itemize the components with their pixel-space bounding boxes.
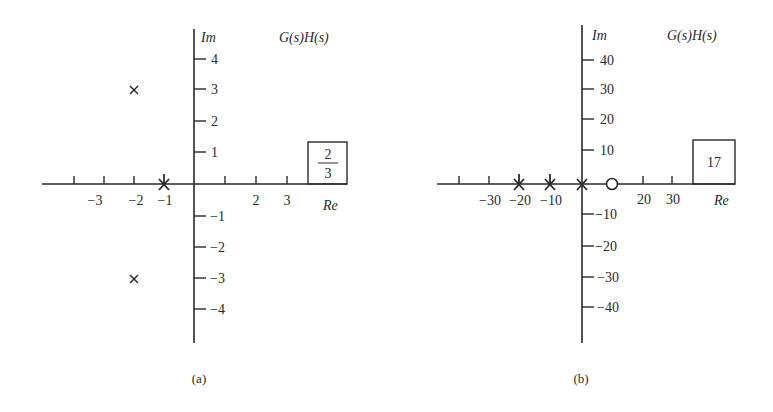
panel-b-tick-label: −30	[597, 270, 619, 285]
pole-icon	[545, 174, 555, 190]
panel-a-tick-label: −2	[129, 193, 144, 208]
panel-a-title: G(s)H(s)	[279, 30, 329, 46]
panel-a-re-label: Re	[322, 198, 338, 213]
panel-a-tick-label: 3	[284, 193, 291, 208]
panel-a-tick-label: −4	[210, 302, 225, 317]
panel-a-tick-label: 2	[211, 114, 218, 129]
panel-a-tick-label: −3	[88, 193, 103, 208]
panel-b-tick-label: 30	[666, 192, 680, 207]
pole-zero-figure: Im G(s)H(s) Re 4 3 2 1 −1 −2 −3 −4 −3 −2…	[0, 0, 773, 412]
panel-a-tick-label: −3	[210, 271, 225, 286]
panel-a	[42, 29, 347, 343]
pole-icon	[130, 275, 138, 283]
panel-a-tick-label: 3	[211, 82, 218, 97]
panel-a-gain-denominator: 3	[325, 166, 332, 181]
panel-b-tick-label: 20	[600, 112, 614, 127]
panel-b-caption: (b)	[573, 371, 588, 386]
panel-b-im-label: Im	[591, 28, 607, 43]
pole-icon	[514, 174, 524, 190]
panel-a-tick-label: 2	[253, 193, 260, 208]
panel-a-tick-label: 1	[211, 145, 218, 160]
panel-b-tick-label: −10	[595, 207, 617, 222]
panel-a-caption: (a)	[192, 371, 206, 386]
panel-b-title: G(s)H(s)	[667, 28, 717, 44]
panel-b-tick-label: −20	[595, 239, 617, 254]
panel-a-gain-numerator: 2	[325, 147, 332, 162]
panel-b-real-ticks	[459, 176, 672, 184]
panel-b-gain-value: 17	[707, 155, 721, 170]
panel-b-tick-label: 10	[600, 143, 614, 158]
panel-a-labels: Im G(s)H(s) Re 4 3 2 1 −1 −2 −3 −4 −3 −2…	[88, 30, 338, 386]
pole-icon	[130, 86, 138, 94]
panel-b-tick-label: −20	[509, 193, 531, 208]
panel-a-tick-label: −1	[210, 209, 225, 224]
pole-icon	[159, 174, 169, 190]
panel-a-tick-label: −2	[210, 240, 225, 255]
panel-b-labels: Im G(s)H(s) Re 40 30 20 10 −10 −20 −30 −…	[479, 28, 729, 386]
panel-a-tick-label: 4	[211, 52, 218, 67]
panel-b-re-label: Re	[713, 193, 729, 208]
panel-b-tick-label: −10	[540, 193, 562, 208]
panel-b	[437, 25, 735, 343]
panel-a-tick-label: −1	[158, 193, 173, 208]
zero-icon	[607, 179, 618, 190]
panel-b-tick-label: 20	[637, 192, 651, 207]
panel-a-im-label: Im	[200, 30, 216, 45]
panel-b-tick-label: −30	[479, 193, 501, 208]
panel-b-tick-label: −40	[597, 300, 619, 315]
panel-b-tick-label: 40	[600, 53, 614, 68]
panel-a-real-ticks	[74, 176, 287, 184]
panel-b-tick-label: 30	[600, 82, 614, 97]
